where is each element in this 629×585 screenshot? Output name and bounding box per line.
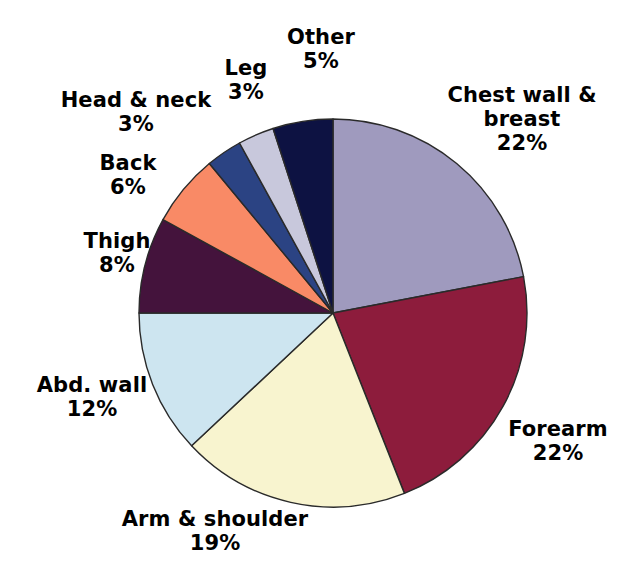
pie-label-other: Other 5% (261, 26, 381, 74)
pie-label-thigh: Thigh 8% (58, 230, 176, 278)
pie-label-arm-shoulder-name: Arm & shoulder (108, 508, 322, 532)
pie-value-other: 5% (261, 50, 381, 74)
pie-value-head-neck: 3% (52, 113, 220, 137)
pie-label-back-name: Back (68, 152, 188, 176)
pie-label-chest-wall-breast: Chest wall & breast 22% (424, 84, 620, 156)
pie-label-other-name: Other (261, 26, 381, 50)
pie-value-arm-shoulder: 19% (108, 532, 322, 556)
pie-value-chest-wall-breast: 22% (424, 132, 620, 156)
pie-label-thigh-name: Thigh (58, 230, 176, 254)
pie-value-leg: 3% (196, 81, 296, 105)
pie-label-arm-shoulder: Arm & shoulder 19% (108, 508, 322, 556)
pie-value-thigh: 8% (58, 254, 176, 278)
pie-label-abd-wall: Abd. wall 12% (18, 374, 166, 422)
pie-slice-group (139, 119, 527, 507)
pie-label-back: Back 6% (68, 152, 188, 200)
pie-label-abd-wall-name: Abd. wall (18, 374, 166, 398)
pie-label-head-neck-name: Head & neck (52, 89, 220, 113)
pie-label-chest-wall-breast-line1: Chest wall & (424, 84, 620, 108)
pie-label-forearm-name: Forearm (492, 418, 624, 442)
pie-value-forearm: 22% (492, 442, 624, 466)
pie-value-abd-wall: 12% (18, 398, 166, 422)
pie-label-forearm: Forearm 22% (492, 418, 624, 466)
pie-value-back: 6% (68, 176, 188, 200)
pie-label-chest-wall-breast-line2: breast (424, 108, 620, 132)
pie-label-head-neck: Head & neck 3% (52, 89, 220, 137)
pie-chart-figure: Chest wall & breast 22% Forearm 22% Arm … (0, 0, 629, 585)
